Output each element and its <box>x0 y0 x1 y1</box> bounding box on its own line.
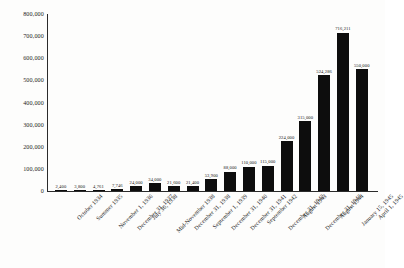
bar-slot: 224,000 <box>281 14 293 191</box>
y-axis-tick-label: 200,000 <box>23 144 44 150</box>
bar <box>168 186 180 191</box>
bar-value-label: 7,746 <box>112 183 123 188</box>
bar-value-label: 524,286 <box>316 69 332 74</box>
bar <box>318 75 330 191</box>
x-axis-category-label: August 1944 <box>338 193 364 219</box>
bar <box>281 141 293 191</box>
y-axis-tick-label: 300,000 <box>23 122 44 128</box>
bar-value-label: 2,400 <box>55 184 66 189</box>
bar-value-label: 88,000 <box>224 165 237 170</box>
bar-slot: 4,761 <box>93 14 105 191</box>
bar <box>299 121 311 191</box>
bar-value-label: 21,400 <box>186 180 199 185</box>
bar-slot: 21,400 <box>187 14 199 191</box>
bar <box>205 179 217 191</box>
bar-slot: 3,800 <box>74 14 86 191</box>
bar <box>74 190 86 191</box>
bar-value-label: 3,800 <box>74 184 85 189</box>
bar-slot: 21,600 <box>168 14 180 191</box>
bar-value-label: 716,211 <box>335 26 350 31</box>
x-axis-category-label: August 1943 <box>301 193 327 219</box>
bar-slot: 88,000 <box>224 14 236 191</box>
bar-value-label: 110,000 <box>241 160 256 165</box>
bar <box>55 190 67 191</box>
x-axis-category-labels: October 1934Summer 1935November 1, 1936D… <box>47 193 378 268</box>
bar-value-label: 224,000 <box>279 135 295 140</box>
bar-value-label: 21,600 <box>167 180 180 185</box>
bar-value-label: 115,000 <box>260 159 275 164</box>
bar-slot: 115,000 <box>262 14 274 191</box>
bar-slot: 7,746 <box>111 14 123 191</box>
bar-value-label: 315,000 <box>298 115 314 120</box>
bar <box>224 172 236 191</box>
y-axis-tick-label: 0 <box>41 188 44 194</box>
bar-slot: 53,900 <box>205 14 217 191</box>
bar <box>93 190 105 191</box>
bar-slot: 716,211 <box>337 14 349 191</box>
bar-value-label: 4,761 <box>93 184 104 189</box>
bar-slot: 2,400 <box>55 14 67 191</box>
y-axis-tick-label: 500,000 <box>23 77 44 83</box>
bar <box>337 33 349 191</box>
bar <box>130 186 142 191</box>
bar-slot: 24,000 <box>130 14 142 191</box>
bar <box>187 186 199 191</box>
bar <box>243 167 255 191</box>
plot-area: 2,4003,8004,7617,74624,00034,00021,60021… <box>47 14 377 191</box>
bar <box>111 189 123 191</box>
bar-slot: 110,000 <box>243 14 255 191</box>
bar-value-label: 53,900 <box>205 173 218 178</box>
bar-slot: 550,000 <box>356 14 368 191</box>
bar-value-label: 24,000 <box>129 180 142 185</box>
bar-value-label: 550,000 <box>354 63 370 68</box>
bar <box>262 166 274 191</box>
y-axis-tick-label: 700,000 <box>23 33 44 39</box>
y-axis-tick-label: 800,000 <box>23 11 44 17</box>
y-axis-tick-label: 600,000 <box>23 55 44 61</box>
y-axis-tick-label: 100,000 <box>23 166 44 172</box>
x-axis-line <box>47 191 378 192</box>
bar <box>149 183 161 191</box>
y-axis-tick-labels: 800,000700,000600,000500,000400,000300,0… <box>0 0 44 268</box>
y-axis-tick-label: 400,000 <box>23 100 44 106</box>
bar-value-label: 34,000 <box>148 177 161 182</box>
bar-slot: 34,000 <box>149 14 161 191</box>
bar-slot: 315,000 <box>299 14 311 191</box>
bar-slot: 524,286 <box>318 14 330 191</box>
bar <box>356 69 368 191</box>
